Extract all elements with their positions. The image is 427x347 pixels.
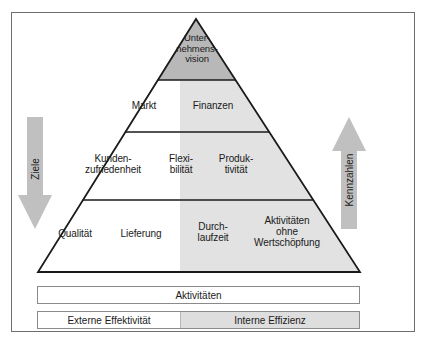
goals-arrow-label: Ziele — [30, 158, 41, 180]
pyramid-cell-lieferung: Lieferung — [110, 228, 172, 239]
activities-bar: Aktivitäten — [37, 286, 360, 304]
goals-arrow: Ziele — [18, 117, 52, 229]
pyramid-cell-flexibilitaet: Flexi- bilität — [158, 153, 204, 175]
effectiveness-efficiency-bar: Externe Effektivität Interne Effizienz — [37, 311, 360, 329]
pyramid-cell-finanzen: Finanzen — [182, 100, 244, 111]
metrics-arrow-label: Kennzahlen — [344, 153, 355, 206]
internal-efficiency-segment: Interne Effizienz — [181, 312, 359, 328]
pyramid-cell-aktivitaeten-ohne-wertschoepfung: Aktivitäten ohne Wertschöpfung — [241, 215, 333, 249]
pyramid-cell-qualitaet: Qualität — [47, 228, 103, 239]
external-effectiveness-label: Externe Effektivität — [67, 315, 150, 326]
pyramid-cell-durchlaufzeit: Durch- laufzeit — [186, 221, 240, 243]
internal-efficiency-label: Interne Effizienz — [234, 315, 306, 326]
metrics-arrow: Kennzahlen — [332, 117, 366, 229]
pyramid-cell-produktivitaet: Produk- tivität — [208, 153, 264, 175]
pyramid-cell-markt: Markt — [118, 100, 170, 111]
activities-bar-label: Aktivitäten — [175, 290, 221, 301]
pyramid-cell-kundenzufriedenheit: Kunden- zufriedenheit — [70, 153, 156, 175]
external-effectiveness-segment: Externe Effektivität — [38, 312, 181, 328]
pyramid-cell-vision: Unter- nehmens- vision — [156, 33, 238, 65]
pyramid-diagram: Unter- nehmens- vision Markt Finanzen Ku… — [0, 0, 427, 347]
